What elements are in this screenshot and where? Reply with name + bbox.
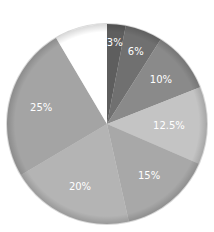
pie-chart: 3%6%10%12.5%15%20%25% <box>0 0 214 232</box>
slice-label: 20% <box>69 181 91 192</box>
slice-label: 25% <box>30 102 52 113</box>
slice-label: 12.5% <box>153 120 185 131</box>
slice-label: 15% <box>138 170 160 181</box>
slice-label: 10% <box>150 74 172 85</box>
slice-label: 6% <box>128 46 144 57</box>
slice-label: 3% <box>107 37 123 48</box>
